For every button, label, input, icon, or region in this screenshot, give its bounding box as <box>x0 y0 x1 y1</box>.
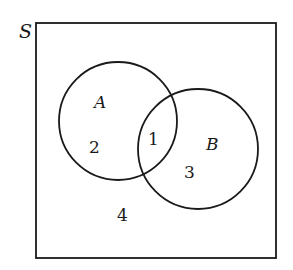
region-intersection-label: 1 <box>148 129 159 149</box>
region-b-only-label: 3 <box>184 162 195 182</box>
set-b-label: B <box>205 134 219 154</box>
venn-diagram: S A B 2 1 3 4 <box>0 0 293 270</box>
set-b-circle <box>138 89 258 209</box>
universe-label: S <box>19 20 32 42</box>
set-a-circle <box>59 62 177 180</box>
region-outside-label: 4 <box>117 205 128 225</box>
set-a-label: A <box>92 92 106 112</box>
region-a-only-label: 2 <box>89 137 100 157</box>
